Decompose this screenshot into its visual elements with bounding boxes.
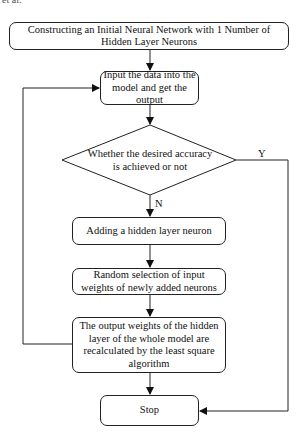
node-add: Adding a hidden layer neuron	[72, 217, 226, 245]
edge-label-yes: Y	[258, 148, 266, 159]
edge-label-no: N	[155, 198, 163, 209]
node-decision-text: Whether the desired accuracy is achieved…	[85, 148, 215, 173]
node-recalc: The output weights of the hidden layer o…	[72, 317, 226, 373]
node-random: Random selection of input weights of new…	[72, 268, 226, 295]
node-input: Input the data into the model and get th…	[100, 71, 199, 105]
node-init: Constructing an Initial Neural Network w…	[9, 22, 289, 50]
node-stop: Stop	[100, 395, 199, 426]
